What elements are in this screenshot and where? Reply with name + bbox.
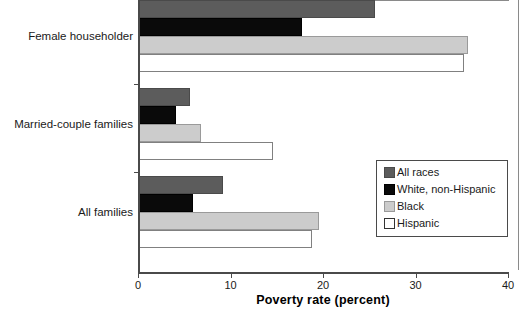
legend-item-black[interactable]: Black — [384, 200, 501, 213]
legend-label-black: Black — [397, 200, 424, 213]
bar-all-families-hispanic — [138, 230, 312, 248]
category-label-female-householder: Female householder — [0, 30, 133, 42]
poverty-rate-bar-chart: 010203040 All familiesMarried-couple fam… — [0, 0, 519, 311]
category-label-all-families: All families — [0, 206, 133, 218]
bar-all-families-all-races — [138, 176, 223, 194]
x-tick-10 — [231, 272, 232, 278]
x-axis-title: Poverty rate (percent) — [138, 293, 508, 307]
x-tick-label-20: 20 — [317, 279, 329, 291]
bar-all-families-black — [138, 212, 319, 230]
legend-label-hispanic: Hispanic — [397, 217, 439, 230]
legend-item-all-races[interactable]: All races — [384, 166, 501, 179]
legend-label-white-non-hispanic: White, non-Hispanic — [397, 183, 495, 196]
bar-married-couple-families-hispanic — [138, 142, 273, 160]
bar-married-couple-families-all-races — [138, 88, 190, 106]
x-tick-20 — [323, 272, 324, 278]
legend-swatch-hispanic — [384, 218, 395, 229]
bar-married-couple-families-white-non-hispanic — [138, 106, 176, 124]
x-tick-label-40: 40 — [502, 279, 514, 291]
x-tick-40 — [508, 272, 509, 278]
legend-swatch-white-non-hispanic — [384, 184, 395, 195]
legend-item-white-non-hispanic[interactable]: White, non-Hispanic — [384, 183, 501, 196]
bar-all-families-white-non-hispanic — [138, 194, 193, 212]
x-tick-0 — [138, 272, 139, 278]
bar-married-couple-families-black — [138, 124, 201, 142]
bar-female-householder-hispanic — [138, 54, 464, 72]
x-tick-30 — [416, 272, 417, 278]
x-tick-label-0: 0 — [135, 279, 141, 291]
legend-item-hispanic[interactable]: Hispanic — [384, 217, 501, 230]
y-axis-line — [138, 0, 140, 274]
legend: All races White, non-Hispanic Black Hisp… — [376, 160, 508, 237]
bar-female-householder-black — [138, 36, 468, 54]
y-axis-group-tick — [134, 172, 140, 173]
legend-swatch-black — [384, 201, 395, 212]
y-axis-group-tick — [134, 84, 140, 85]
legend-swatch-all-races — [384, 167, 395, 178]
bar-female-householder-all-races — [138, 0, 375, 18]
x-tick-label-10: 10 — [224, 279, 236, 291]
category-label-married-couple-families: Married-couple families — [0, 118, 133, 130]
x-tick-label-30: 30 — [409, 279, 421, 291]
bar-female-householder-white-non-hispanic — [138, 18, 302, 36]
legend-label-all-races: All races — [397, 166, 439, 179]
